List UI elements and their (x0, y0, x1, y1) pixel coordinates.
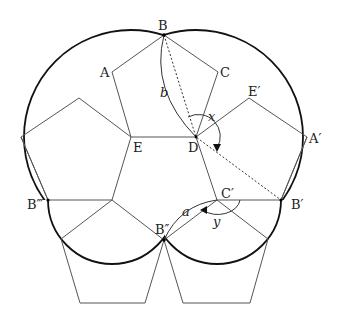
label-arc-a: a (182, 204, 190, 219)
point-b (162, 33, 166, 37)
label-a: A (99, 65, 110, 80)
label-a-prime: A′ (308, 131, 321, 146)
label-angle-y: y (212, 214, 221, 229)
point-b-triple (46, 198, 49, 201)
pentagon-rotation-diagram: B A C D E E′ A′ B′ C′ B″ B‴ b a x y (0, 0, 338, 319)
label-e-prime: E′ (248, 84, 260, 99)
pentagon-left (21, 98, 131, 200)
label-b-double: B″ (155, 222, 170, 237)
label-e: E (133, 140, 143, 155)
chord-left (21, 137, 48, 200)
label-b: B (158, 18, 168, 33)
label-c: C (220, 65, 230, 80)
arrowhead-y-icon (200, 206, 207, 214)
angle-y-arc (203, 200, 240, 214)
label-d: D (188, 140, 198, 155)
label-angle-x: x (208, 109, 216, 124)
label-arc-b: b (160, 85, 168, 100)
chord-a-prime-b-prime (281, 137, 307, 200)
label-c-prime: C′ (221, 186, 234, 201)
point-b-double (162, 238, 166, 242)
label-b-prime: B′ (291, 197, 304, 212)
point-d (195, 136, 198, 139)
label-b-triple: B‴ (27, 197, 44, 212)
point-b-prime (279, 198, 282, 201)
